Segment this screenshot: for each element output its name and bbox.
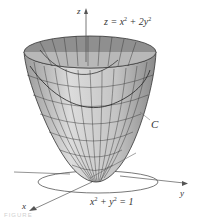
surface-eq-mid: + 2y	[127, 16, 148, 27]
y-axis-label: y	[180, 188, 184, 198]
curve-c-label: C	[151, 118, 158, 130]
z-axis-label: z	[77, 6, 81, 16]
x-axis-arrow	[29, 206, 37, 211]
surface-eq-lhs: z = x	[104, 16, 124, 27]
surface-eq-exp2: 2	[148, 16, 151, 22]
x-axis-label: x	[22, 201, 26, 211]
circle-equation: x2 + y2 = 1	[90, 196, 133, 207]
y-axis-arrow	[182, 181, 188, 186]
circle-eq-rhs: = 1	[117, 196, 134, 207]
paraboloid-diagram	[0, 0, 197, 221]
circle-eq-b: + y	[97, 196, 113, 207]
surface-equation: z = x2 + 2y2	[104, 16, 151, 27]
figure-caption: FIGURE	[4, 212, 33, 218]
z-axis-arrow	[84, 8, 88, 14]
